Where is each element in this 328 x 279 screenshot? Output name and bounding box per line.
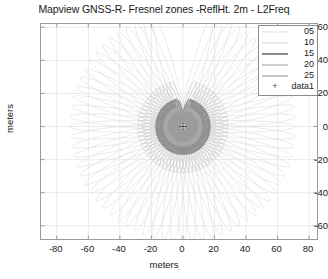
legend-line-swatch <box>261 26 289 37</box>
legend-item: 10 <box>259 37 317 48</box>
y-axis-label: meters <box>4 89 15 149</box>
x-tick-label: 80 <box>288 243 328 254</box>
legend-line <box>262 75 288 76</box>
plus-marker-icon: + <box>261 81 289 92</box>
y-tick-label: -20 <box>294 153 328 164</box>
legend-line-swatch <box>261 70 289 81</box>
legend-line-swatch <box>261 59 289 70</box>
legend-line <box>262 42 288 43</box>
legend-label: 25 <box>289 70 317 81</box>
legend-line <box>262 64 288 65</box>
legend-label: 20 <box>289 59 317 70</box>
legend-line <box>262 53 288 55</box>
legend-box: 0510152025+data1 <box>258 25 318 96</box>
legend-label: 10 <box>289 37 317 48</box>
y-tick-label: -40 <box>294 186 328 197</box>
legend-item: 20 <box>259 59 317 70</box>
figure-window: Mapview GNSS-R- Fresnel zones -ReflHt. 2… <box>0 0 328 279</box>
legend-label: 05 <box>289 26 317 37</box>
legend-item: 05 <box>259 26 317 37</box>
legend-item: +data1 <box>259 81 317 92</box>
legend-label: 15 <box>289 48 317 59</box>
x-axis-label: meters <box>0 259 328 270</box>
y-tick-label: 0 <box>294 120 328 131</box>
legend-marker-swatch: + <box>261 81 289 92</box>
y-tick-label: -60 <box>294 219 328 230</box>
legend-line <box>262 31 288 32</box>
legend-item: 25 <box>259 70 317 81</box>
legend-item: 15 <box>259 48 317 59</box>
legend-line-swatch <box>261 48 289 59</box>
legend-label: data1 <box>289 81 317 92</box>
legend-line-swatch <box>261 37 289 48</box>
chart-title: Mapview GNSS-R- Fresnel zones -ReflHt. 2… <box>0 3 328 15</box>
